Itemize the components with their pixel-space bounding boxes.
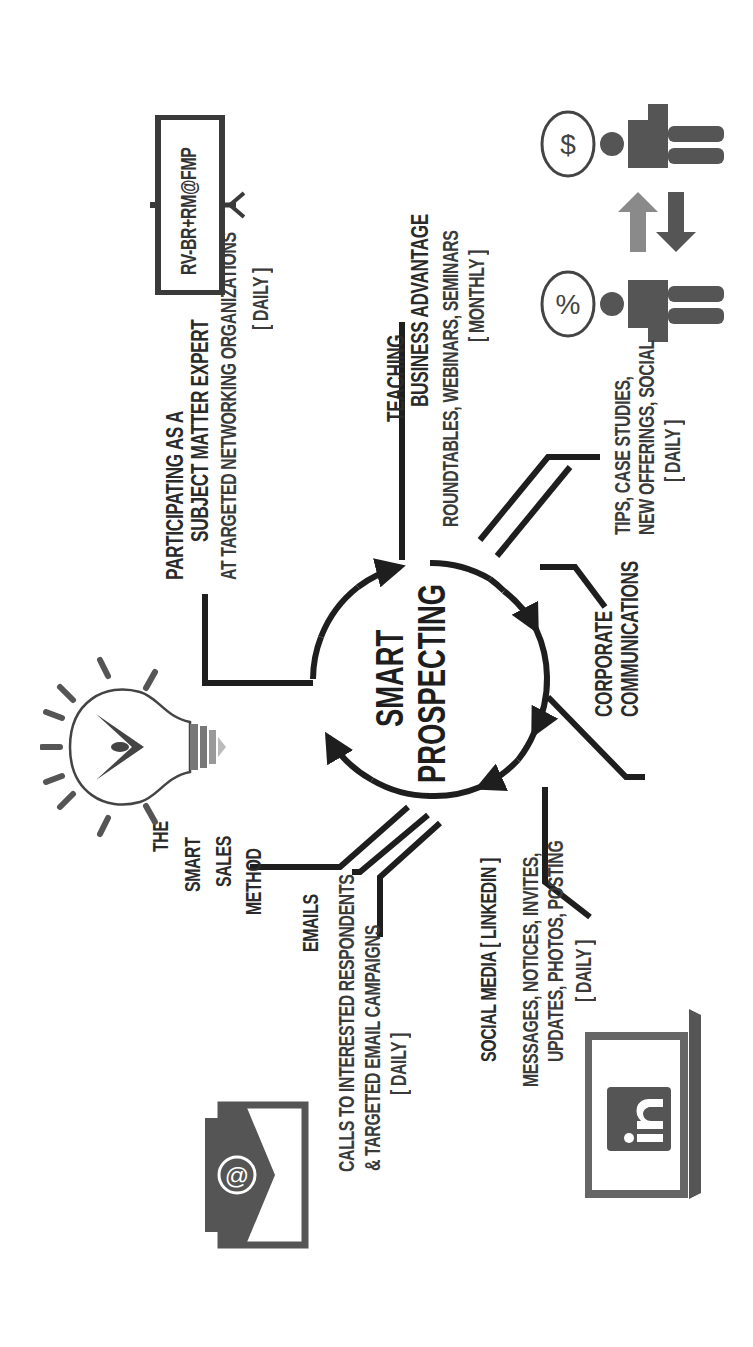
teaching-title-line1: TEACHING: [384, 335, 408, 422]
cycle-arrow-5: [480, 760, 518, 787]
sign-text: RV-BR+RM@FMP: [178, 148, 200, 275]
emails-detail-line1: CALLS TO INTERESTED RESPONDENTS: [336, 875, 358, 1172]
emails-detail-line2: & TARGETED EMAIL CAMPAIGNS: [362, 925, 384, 1171]
svg-text:$: $: [560, 129, 576, 160]
social-frequency: [ DAILY ]: [573, 940, 595, 1002]
connector-tips-outer: [480, 457, 600, 540]
corporate-title-line1: CORPORATE: [592, 611, 616, 717]
social-detail-line1: MESSAGES, NOTICES, INVITES,: [520, 853, 542, 1087]
smart-prospecting-diagram: SMART PROSPECTING PARTICIPATING AS A SUB…: [0, 0, 753, 1347]
svg-text:@: @: [225, 1162, 249, 1189]
method-title-line2: SMART: [182, 837, 204, 892]
corporate-detail-line1: TIPS, CASE STUDIES,: [612, 376, 634, 535]
connector-method-outer: [250, 807, 408, 867]
people-exchange-icon: % $: [530, 102, 730, 342]
svg-text:%: %: [556, 289, 581, 320]
expert-frequency: [ DAILY ]: [250, 268, 272, 330]
teaching-detail: ROUNDTABLES, WEBINARS, SEMINARS: [440, 230, 462, 527]
center-title-line2: PROSPECTING: [414, 584, 450, 783]
teaching-title-line2: BUSINESS ADVANTAGE: [408, 214, 432, 407]
lightbulb-icon: [40, 652, 230, 842]
center-title-line1: SMART: [372, 630, 408, 727]
corporate-title-line2: COMMUNICATIONS: [618, 561, 642, 717]
expert-title-line2: SUBJECT MATTER EXPERT: [188, 319, 212, 542]
social-detail-line2: UPDATES, PHOTOS, POSTING: [545, 841, 567, 1062]
emails-frequency: [ DAILY ]: [388, 1033, 410, 1095]
expert-title-line1: PARTICIPATING AS A: [163, 411, 187, 580]
method-title-line3: SALES: [213, 836, 235, 887]
social-title: SOCIAL MEDIA [ LINKEDIN ]: [478, 858, 500, 1062]
cycle-arrow-4: [534, 677, 547, 733]
linkedin-laptop-icon: [585, 1009, 705, 1199]
email-at-icon: @: [205, 1100, 310, 1250]
method-title-line4: METHOD: [243, 849, 265, 915]
corporate-frequency: [ DAILY ]: [662, 420, 684, 482]
corporate-detail-line2: NEW OFFERINGS, SOCIAL: [636, 340, 658, 535]
cycle-arrow-2: [358, 567, 400, 587]
cycle-arrow-1: [328, 737, 372, 780]
connector-corporate: [540, 567, 605, 607]
cycle-arrow-3: [504, 591, 536, 629]
emails-title: EMAILS: [300, 894, 322, 952]
teaching-frequency: [ MONTHLY ]: [466, 250, 488, 342]
